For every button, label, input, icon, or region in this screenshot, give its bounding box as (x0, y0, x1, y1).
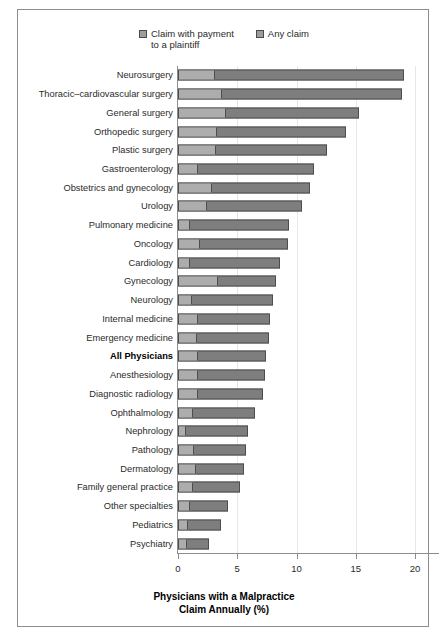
category-label: Nephrology (125, 426, 173, 436)
stacked-bar (178, 182, 310, 193)
category-label: Gynecology (124, 276, 173, 286)
legend-item-claim-with-payment: Claim with payment to a plaintiff (139, 28, 234, 50)
category-label: Anesthesiology (110, 370, 173, 380)
stacked-bar (178, 313, 270, 324)
category-label: Family general practice (77, 482, 173, 492)
stacked-bar (178, 519, 221, 530)
legend-label-claim-with-payment: Claim with payment to a plaintiff (151, 28, 234, 50)
legend-label-any-claim: Any claim (268, 28, 309, 39)
category-label: Orthopedic surgery (94, 127, 173, 137)
category-label: Dermatology (120, 464, 173, 474)
category-label: Neurology (131, 295, 173, 305)
x-tick-label-10: 10 (291, 563, 302, 574)
stacked-bar (178, 201, 302, 212)
bar-segment-claim-with-payment (179, 352, 198, 361)
bar-segment-claim-with-payment (179, 371, 198, 380)
category-label: Gastroenterology (102, 164, 173, 174)
bar-segment-claim-with-payment (179, 464, 196, 473)
stacked-bar (178, 482, 240, 493)
stacked-bar (178, 276, 276, 287)
chart-legend: Claim with payment to a plaintiff Any cl… (18, 28, 430, 50)
stacked-bar (178, 538, 209, 549)
chart-frame: Claim with payment to a plaintiff Any cl… (17, 9, 429, 627)
bar-row: Obstetrics and gynecology (178, 178, 415, 197)
stacked-bar (178, 257, 280, 268)
legend-swatch-claim-with-payment (139, 30, 147, 38)
bar-row: Cardiology (178, 253, 415, 272)
bar-row: General surgery (178, 103, 415, 122)
bar-row: Family general practice (178, 478, 415, 497)
bar-row: Internal medicine (178, 310, 415, 329)
bar-segment-claim-with-payment (179, 127, 217, 136)
bar-segment-claim-with-payment (179, 314, 198, 323)
bar-segment-claim-with-payment (179, 296, 192, 305)
bar-row: Ophthalmology (178, 403, 415, 422)
category-label: Urology (141, 201, 173, 211)
category-label: Emergency medicine (86, 333, 173, 343)
bar-row: Pulmonary medicine (178, 216, 415, 235)
category-label: Pathology (132, 445, 173, 455)
bar-row: Dermatology (178, 459, 415, 478)
bar-segment-claim-with-payment (179, 221, 190, 230)
bar-row: Oncology (178, 235, 415, 254)
bar-row: Nephrology (178, 422, 415, 441)
stacked-bar (178, 107, 359, 118)
category-label: Pulmonary medicine (89, 220, 173, 230)
bar-row: Pathology (178, 441, 415, 460)
gridline-20 (415, 66, 416, 553)
bar-row: Gastroenterology (178, 160, 415, 179)
bar-row: Anesthesiology (178, 366, 415, 385)
category-label: All Physicians (110, 351, 173, 361)
legend-item-any-claim: Any claim (256, 28, 309, 50)
x-tick-label-15: 15 (350, 563, 361, 574)
bar-segment-claim-with-payment (179, 277, 218, 286)
bar-segment-claim-with-payment (179, 333, 197, 342)
bar-segment-claim-with-payment (179, 90, 222, 99)
bar-row: Neurosurgery (178, 66, 415, 85)
bar-segment-claim-with-payment (179, 483, 193, 492)
category-label: Diagnostic radiology (89, 389, 173, 399)
bar-row: Emergency medicine (178, 328, 415, 347)
category-label: Oncology (134, 239, 173, 249)
x-axis-title: Physicians with a Malpractice Claim Annu… (18, 590, 430, 616)
bar-row: Other specialties (178, 497, 415, 516)
category-label: Pediatrics (132, 520, 173, 530)
stacked-bar (178, 295, 273, 306)
category-label: Ophthalmology (110, 408, 173, 418)
bar-row: Diagnostic radiology (178, 384, 415, 403)
stacked-bar (178, 220, 289, 231)
stacked-bar (178, 332, 269, 343)
bar-segment-claim-with-payment (179, 202, 207, 211)
bar-segment-claim-with-payment (179, 389, 198, 398)
stacked-bar (178, 238, 288, 249)
stacked-bar (178, 444, 246, 455)
bar-row: Neurology (178, 291, 415, 310)
bar-row: Gynecology (178, 272, 415, 291)
category-label: Thoracic–cardiovascular surgery (39, 89, 173, 99)
bar-segment-claim-with-payment (179, 427, 186, 436)
x-axis-line (177, 553, 439, 554)
bar-segment-claim-with-payment (179, 183, 212, 192)
legend-swatch-any-claim (256, 30, 264, 38)
stacked-bar (178, 126, 346, 137)
bar-segment-claim-with-payment (179, 146, 216, 155)
bar-row: Orthopedic surgery (178, 122, 415, 141)
category-label: Neurosurgery (117, 70, 173, 80)
bar-segment-claim-with-payment (179, 520, 188, 529)
bar-segment-claim-with-payment (179, 408, 193, 417)
stacked-bar (178, 70, 404, 81)
x-tick-5 (237, 553, 238, 559)
x-tick-10 (297, 553, 298, 559)
bar-row: Urology (178, 197, 415, 216)
stacked-bar (178, 388, 263, 399)
category-label: Other specialties (104, 501, 173, 511)
bar-row: Psychiatry (178, 534, 415, 553)
x-tick-0 (178, 553, 179, 559)
bar-segment-claim-with-payment (179, 108, 226, 117)
bar-segment-claim-with-payment (179, 502, 190, 511)
bar-row: Plastic surgery (178, 141, 415, 160)
category-label: Psychiatry (130, 539, 173, 549)
stacked-bar (178, 426, 248, 437)
bar-segment-claim-with-payment (179, 258, 190, 267)
stacked-bar (178, 351, 266, 362)
